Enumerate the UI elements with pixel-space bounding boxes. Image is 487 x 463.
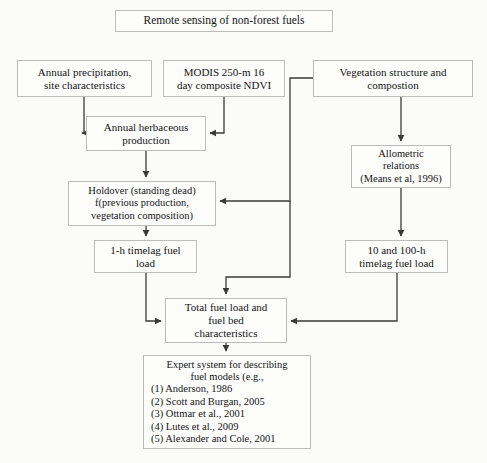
node-line: Allometric (356, 148, 446, 160)
node-allometric-relations: Allometric relations (Means et al, 1996) (351, 145, 451, 188)
node-annual-herbaceous-production: Annual herbaceous production (86, 116, 206, 151)
node-line: Total fuel load and (170, 301, 282, 314)
node-modis-ndvi: MODIS 250-m 16 day composite NDVI (163, 60, 285, 97)
node-line: Annual herbaceous (91, 121, 201, 134)
node-annual-precipitation: Annual precipitation, site characteristi… (17, 60, 152, 97)
node-line: f(previous production, (73, 197, 211, 209)
expert-system-item: (3) Ottmar et al., 2001 (151, 408, 303, 420)
expert-system-item: (5) Alexander and Cole, 2001 (151, 433, 303, 445)
expert-system-heading-line: Expert system for describing (151, 359, 303, 371)
node-ten-and-hundred-hour-timelag-fuel-load: 10 and 100-h timelag fuel load (345, 240, 448, 273)
node-line: (Means et al, 1996) (356, 173, 446, 185)
diagram-title-text: Remote sensing of non-forest fuels (120, 14, 328, 28)
node-line: site characteristics (22, 79, 147, 92)
node-line: compostion (318, 79, 468, 92)
node-line: Vegetation structure and (318, 66, 468, 79)
node-total-fuel-load: Total fuel load and fuel bed characteris… (165, 298, 287, 343)
node-line: vegetation composition) (73, 210, 211, 222)
node-line: production (91, 134, 201, 147)
node-line: load (99, 257, 192, 270)
node-line: relations (356, 160, 446, 172)
node-line: Annual precipitation, (22, 66, 147, 79)
node-line: fuel bed (170, 314, 282, 327)
node-line: characteristics (170, 327, 282, 340)
wire-tenhour-to-total (291, 273, 397, 321)
flowchart-canvas: Remote sensing of non-forest fuels Annua… (0, 0, 487, 463)
expert-system-item: (1) Anderson, 1986 (151, 383, 303, 395)
node-line: Holdover (standing dead) (73, 185, 211, 197)
wire-onehour-to-total (146, 273, 161, 321)
node-line: MODIS 250-m 16 (168, 66, 280, 79)
wire-modis-to-annual (210, 97, 224, 133)
wire-precipitation-to-annual (82, 97, 84, 133)
expert-system-item: (2) Scott and Burgan, 2005 (151, 396, 303, 408)
expert-system-heading-line: fuel models (e.g., (151, 371, 303, 383)
node-vegetation-structure: Vegetation structure and compostion (313, 60, 473, 97)
node-line: 10 and 100-h (350, 244, 443, 257)
node-line: day composite NDVI (168, 79, 280, 92)
node-expert-system: Expert system for describing fuel models… (143, 355, 311, 449)
node-one-hour-timelag-fuel-load: 1-h timelag fuel load (94, 240, 197, 273)
wire-vegetation-to-total (226, 201, 290, 294)
expert-system-item: (4) Lutes et al., 2009 (151, 421, 303, 433)
node-line: timelag fuel load (350, 257, 443, 270)
node-holdover-standing-dead: Holdover (standing dead) f(previous prod… (68, 181, 216, 226)
diagram-title-box: Remote sensing of non-forest fuels (115, 10, 333, 32)
node-line: 1-h timelag fuel (99, 244, 192, 257)
